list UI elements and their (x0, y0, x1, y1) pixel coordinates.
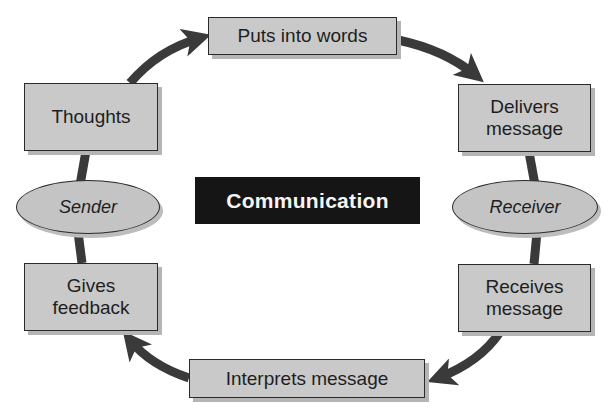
arrow-interprets-to-feedback (130, 340, 189, 378)
step-puts-into-words-label: Puts into words (238, 25, 368, 47)
arrow-words-to-delivers (398, 40, 475, 75)
step-delivers-message: Delivers message (458, 84, 591, 152)
step-gives-feedback-line2: feedback (52, 297, 129, 319)
role-sender: Sender (16, 180, 160, 234)
communication-cycle-diagram: Thoughts Puts into words Delivers messag… (0, 0, 616, 415)
step-receives-message-line2: message (486, 298, 563, 320)
step-thoughts: Thoughts (24, 83, 158, 151)
diagram-title: Communication (195, 177, 420, 224)
step-gives-feedback: Gives feedback (24, 263, 158, 331)
step-receives-message-line1: Receives (485, 276, 563, 298)
diagram-title-text: Communication (226, 189, 389, 213)
step-gives-feedback-line1: Gives (67, 275, 116, 297)
step-interprets-message: Interprets message (189, 359, 425, 398)
step-delivers-message-line1: Delivers (490, 96, 559, 118)
connector-receiver-to-receives (534, 232, 537, 264)
arrow-receives-to-interprets (438, 332, 500, 378)
step-puts-into-words: Puts into words (208, 17, 397, 55)
role-sender-label: Sender (59, 197, 117, 218)
step-thoughts-label: Thoughts (51, 106, 130, 128)
step-interprets-message-label: Interprets message (226, 368, 389, 390)
arrow-thoughts-to-words (130, 38, 200, 83)
role-receiver-label: Receiver (489, 197, 560, 218)
step-delivers-message-line2: message (486, 118, 563, 140)
step-receives-message: Receives message (458, 264, 591, 332)
connector-feedback-to-sender (78, 232, 82, 263)
role-receiver: Receiver (452, 180, 598, 234)
